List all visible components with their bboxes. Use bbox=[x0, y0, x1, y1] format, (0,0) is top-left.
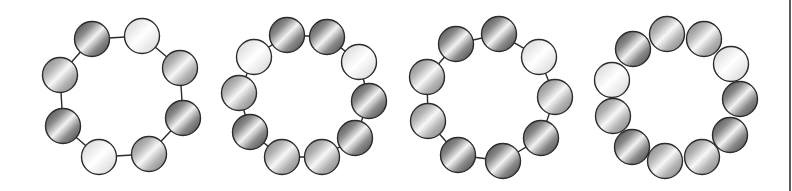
bead-light bbox=[595, 63, 630, 98]
ring-1 bbox=[43, 19, 201, 175]
ring-3 bbox=[410, 17, 573, 179]
bead-mid bbox=[648, 144, 683, 179]
bead-dark bbox=[441, 138, 476, 173]
bead-dark bbox=[615, 130, 650, 165]
bead-mid bbox=[411, 104, 446, 139]
bead-light bbox=[82, 140, 117, 175]
bead-light bbox=[714, 47, 749, 82]
bead-light bbox=[342, 45, 377, 80]
ring-2 bbox=[222, 18, 387, 175]
bead-light bbox=[125, 19, 160, 54]
bead-dark bbox=[482, 17, 517, 52]
bead-mid bbox=[163, 51, 198, 86]
bead-mid bbox=[132, 137, 167, 172]
bead-dark bbox=[310, 20, 345, 55]
bead-mid bbox=[43, 58, 78, 93]
bead-light bbox=[522, 40, 557, 75]
bead-dark bbox=[166, 101, 201, 136]
bead-dark bbox=[352, 84, 387, 119]
bead-dark bbox=[75, 22, 110, 57]
bead-mid bbox=[538, 80, 573, 115]
bead-mid bbox=[305, 140, 340, 175]
rings-layer bbox=[43, 17, 758, 179]
bead-mid bbox=[222, 76, 257, 111]
bead-mid bbox=[687, 22, 722, 57]
bead-mid bbox=[265, 140, 300, 175]
ring-4 bbox=[595, 17, 758, 179]
bead-dark bbox=[524, 121, 559, 156]
bead-light bbox=[237, 40, 272, 75]
bead-dark bbox=[270, 18, 305, 53]
bead-dark bbox=[713, 118, 748, 153]
ring-diagram-canvas bbox=[0, 0, 792, 191]
bead-dark bbox=[46, 109, 81, 144]
bead-mid bbox=[596, 99, 631, 134]
bead-mid bbox=[650, 17, 685, 52]
bead-dark bbox=[486, 144, 521, 179]
bead-dark bbox=[338, 121, 373, 156]
bead-dark bbox=[233, 115, 268, 150]
bead-mid bbox=[410, 60, 445, 95]
ring-connector-lines bbox=[60, 36, 183, 157]
bead-dark bbox=[439, 27, 474, 62]
right-border-line bbox=[789, 0, 791, 191]
bead-mid bbox=[685, 140, 720, 175]
bead-dark bbox=[723, 82, 758, 117]
bead-dark bbox=[616, 32, 651, 67]
